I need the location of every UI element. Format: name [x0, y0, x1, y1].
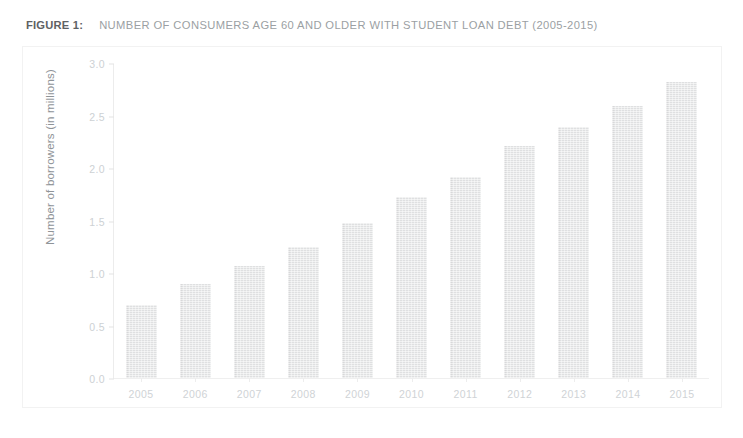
- bar-2008: [288, 247, 319, 378]
- bar-2010: [396, 197, 427, 378]
- x-axis-tick-mark: [466, 378, 467, 382]
- x-axis-tick-mark: [628, 378, 629, 382]
- x-axis-tick-mark: [195, 378, 196, 382]
- y-axis-tick-label: 0.5: [61, 321, 105, 333]
- x-axis-tick-mark: [682, 378, 683, 382]
- y-axis-tick-label: 1.5: [61, 216, 105, 228]
- bar-slot: 2010: [384, 64, 438, 378]
- figure-number-label: FIGURE 1:: [26, 19, 83, 31]
- y-axis-tick-mark: [109, 379, 114, 380]
- bar-2013: [558, 127, 589, 378]
- bar-slot: 2007: [222, 64, 276, 378]
- bar-slot: 2011: [439, 64, 493, 378]
- x-axis-tick-label-2013: 2013: [561, 388, 586, 400]
- x-axis-tick-mark: [141, 378, 142, 382]
- bar-slot: 2008: [276, 64, 330, 378]
- x-axis-tick-mark: [412, 378, 413, 382]
- bar-slot: 2015: [655, 64, 709, 378]
- y-axis-title: Number of borrowers (in millions): [44, 42, 56, 272]
- x-axis-tick-label-2014: 2014: [615, 388, 640, 400]
- bar-2009: [342, 223, 373, 378]
- bar-slot: 2006: [168, 64, 222, 378]
- x-axis-tick-label-2011: 2011: [454, 388, 478, 400]
- y-axis-tick-label: 3.0: [61, 58, 105, 70]
- x-axis-tick-label-2007: 2007: [237, 388, 262, 400]
- bar-2012: [504, 146, 535, 378]
- x-axis-tick-mark: [520, 378, 521, 382]
- y-axis-tick-label: 1.0: [61, 268, 105, 280]
- x-axis-tick-mark: [303, 378, 304, 382]
- bar-slot: 2013: [547, 64, 601, 378]
- figure-caption: FIGURE 1: NUMBER OF CONSUMERS AGE 60 AND…: [26, 19, 598, 31]
- bar-2015: [666, 82, 697, 378]
- bar-2006: [180, 284, 211, 378]
- x-axis-tick-mark: [357, 378, 358, 382]
- x-axis-tick-mark: [249, 378, 250, 382]
- x-axis-tick-mark: [574, 378, 575, 382]
- x-axis-tick-label-2006: 2006: [183, 388, 208, 400]
- x-axis-tick-label-2010: 2010: [399, 388, 424, 400]
- bar-series-2005-2015: 2005200620072008200920102011201220132014…: [114, 64, 709, 378]
- x-axis-tick-label-2009: 2009: [345, 388, 370, 400]
- bar-2014: [612, 106, 643, 378]
- bar-slot: 2014: [601, 64, 655, 378]
- y-axis-tick-label: 0.0: [61, 373, 105, 385]
- y-axis-tick-label: 2.5: [61, 111, 105, 123]
- bar-slot: 2005: [114, 64, 168, 378]
- x-axis-tick-label-2015: 2015: [670, 388, 695, 400]
- x-axis-tick-label-2008: 2008: [291, 388, 316, 400]
- x-axis-tick-label-2012: 2012: [507, 388, 532, 400]
- bar-slot: 2012: [493, 64, 547, 378]
- bar-slot: 2009: [330, 64, 384, 378]
- bar-2005: [126, 305, 157, 378]
- bar-2011: [450, 177, 481, 378]
- y-axis-tick-label: 2.0: [61, 163, 105, 175]
- chart-plot-frame: Number of borrowers (in millions) 0.00.5…: [22, 46, 722, 408]
- chart-plot-area: 0.00.51.01.52.02.53.0 200520062007200820…: [113, 64, 709, 379]
- figure-title-text: NUMBER OF CONSUMERS AGE 60 AND OLDER WIT…: [99, 19, 598, 31]
- bar-2007: [234, 266, 265, 378]
- x-axis-tick-label-2005: 2005: [129, 388, 154, 400]
